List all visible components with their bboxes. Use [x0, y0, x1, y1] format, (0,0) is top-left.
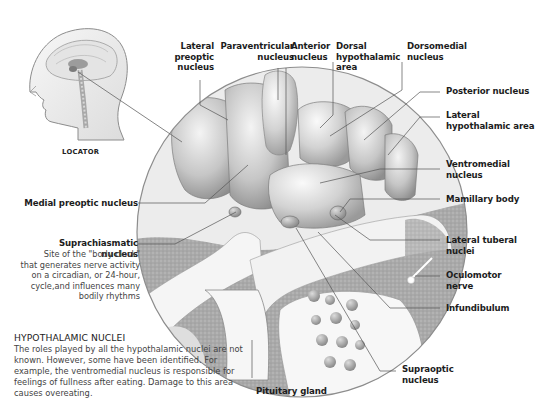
label-pituitary-gland: Pituitary gland: [256, 386, 327, 397]
description-line: bodily rhythms: [10, 291, 140, 302]
label-line: nerve: [446, 281, 501, 292]
label-line: nucleus: [291, 52, 330, 63]
label-line: Pituitary gland: [256, 386, 327, 397]
label-line: nucleus: [162, 62, 214, 73]
label-line: hypothalamic: [336, 52, 400, 63]
label-line: Supraoptic: [402, 364, 454, 375]
label-dorsomedial-nucleus: Dorsomedial nucleus: [407, 41, 467, 62]
description-line: Site of the "body clock": [10, 249, 140, 260]
label-lateral-preoptic-nucleus: Lateral preoptic nucleus: [162, 41, 214, 73]
label-line: nucleus: [402, 375, 454, 386]
locator-label: LOCATOR: [62, 148, 99, 156]
label-line: Ventromedial: [446, 159, 510, 170]
label-lateral-tuberal-nuclei: Lateral tuberal nuclei: [446, 235, 517, 256]
label-mamillary-body: Mamillary body: [446, 194, 519, 205]
label-anterior-nucleus: Anterior nucleus: [291, 41, 330, 62]
label-ventromedial-nucleus: Ventromedial nucleus: [446, 159, 510, 180]
label-line: Lateral tuberal: [446, 235, 517, 246]
description-line: cycle,and influences many: [10, 281, 140, 292]
section-title: HYPOTHALAMIC NUCLEI: [14, 332, 125, 343]
label-posterior-nucleus: Posterior nucleus: [446, 86, 529, 97]
label-line: Paraventricular: [210, 41, 294, 52]
label-line: nucleus: [407, 52, 467, 63]
label-line: Dorsal: [336, 41, 400, 52]
label-line: Lateral: [162, 41, 214, 52]
locator-head-icon: [30, 29, 128, 140]
label-medial-preoptic-nucleus: Medial preoptic nucleus: [20, 198, 138, 209]
label-line: nucleus: [446, 170, 510, 181]
label-line: Lateral: [446, 110, 535, 121]
label-paraventricular-nucleus: Paraventricular nucleus: [210, 41, 294, 62]
label-line: preoptic: [162, 52, 214, 63]
label-line: Posterior nucleus: [446, 86, 529, 97]
label-oculomotor-nerve: Oculomotor nerve: [446, 270, 501, 291]
label-line: Mamillary body: [446, 194, 519, 205]
label-line: Oculomotor: [446, 270, 501, 281]
description-line: that generates nerve activity: [10, 260, 140, 271]
label-line: Medial preoptic nucleus: [20, 198, 138, 209]
label-dorsal-hypothalamic-area: Dorsal hypothalamic area: [336, 41, 400, 73]
suprachiasmatic-description: Site of the "body clock" that generates …: [10, 249, 140, 302]
label-line: area: [336, 62, 400, 73]
label-line: Dorsomedial: [407, 41, 467, 52]
label-line: Infundibulum: [446, 303, 509, 314]
label-line: nucleus: [210, 52, 294, 63]
label-infundibulum: Infundibulum: [446, 303, 509, 314]
label-supraoptic-nucleus: Supraoptic nucleus: [402, 364, 454, 385]
label-line: Anterior: [291, 41, 330, 52]
description-line: on a circadian, or 24-hour,: [10, 270, 140, 281]
label-line: nuclei: [446, 246, 517, 257]
section-body: The roles played by all the hypothalamic…: [14, 344, 250, 399]
label-line: hypothalamic area: [446, 121, 535, 132]
label-lateral-hypothalamic-area: Lateral hypothalamic area: [446, 110, 535, 131]
